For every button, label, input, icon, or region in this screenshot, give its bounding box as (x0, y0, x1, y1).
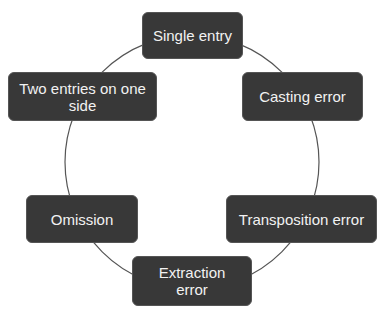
node-two-entries-on-one-side: Two entries on one side (8, 72, 157, 121)
node-extraction-error: Extraction error (132, 256, 252, 306)
node-transposition-error: Transposition error (226, 195, 377, 243)
node-label: Single entry (153, 27, 232, 44)
node-single-entry: Single entry (142, 12, 243, 59)
node-label: Extraction error (155, 264, 229, 298)
node-label: Two entries on one side (15, 80, 150, 114)
node-omission: Omission (26, 195, 138, 243)
node-label: Casting error (259, 88, 346, 105)
node-casting-error: Casting error (242, 72, 363, 121)
node-label: Omission (51, 211, 114, 228)
node-label: Transposition error (239, 211, 364, 228)
